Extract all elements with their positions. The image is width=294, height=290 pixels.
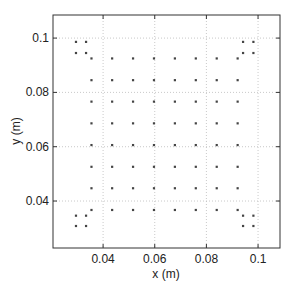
x-tick-label: 0.04: [91, 252, 115, 266]
data-point: [153, 166, 155, 168]
data-point: [132, 209, 134, 211]
data-point: [90, 57, 92, 59]
data-point: [174, 57, 176, 59]
data-point: [111, 144, 113, 146]
data-point: [132, 187, 134, 189]
data-point: [132, 57, 134, 59]
data-point: [75, 41, 77, 43]
data-point: [85, 215, 87, 217]
data-point: [111, 187, 113, 189]
plot-frame: [53, 15, 280, 248]
data-point: [216, 209, 218, 211]
data-point: [85, 52, 87, 54]
data-point: [216, 122, 218, 124]
grid-lines: [53, 15, 280, 248]
data-point: [153, 209, 155, 211]
axis-ticks: 0.040.060.080.10.040.060.080.1: [26, 15, 280, 266]
data-point: [174, 187, 176, 189]
data-point: [132, 101, 134, 103]
data-point: [195, 144, 197, 146]
data-point: [153, 101, 155, 103]
data-point: [132, 166, 134, 168]
data-point: [252, 225, 254, 227]
x-tick-label: 0.1: [250, 252, 267, 266]
data-point: [90, 122, 92, 124]
x-axis-label: x (m): [152, 267, 179, 281]
data-point: [216, 79, 218, 81]
data-point: [90, 209, 92, 211]
data-point: [237, 166, 239, 168]
data-points: [75, 41, 255, 227]
data-point: [216, 101, 218, 103]
data-point: [174, 122, 176, 124]
data-point: [252, 215, 254, 217]
data-point: [90, 101, 92, 103]
data-point: [252, 41, 254, 43]
data-point: [75, 52, 77, 54]
data-point: [195, 166, 197, 168]
y-tick-label: 0.06: [26, 140, 50, 154]
y-axis-label: y (m): [9, 117, 23, 144]
data-point: [195, 122, 197, 124]
data-point: [216, 57, 218, 59]
data-point: [153, 144, 155, 146]
data-point: [90, 79, 92, 81]
data-point: [242, 52, 244, 54]
data-point: [242, 225, 244, 227]
data-point: [132, 122, 134, 124]
data-point: [85, 225, 87, 227]
data-point: [242, 41, 244, 43]
data-point: [153, 79, 155, 81]
data-point: [132, 144, 134, 146]
data-point: [174, 166, 176, 168]
data-point: [237, 79, 239, 81]
data-point: [174, 144, 176, 146]
data-point: [252, 52, 254, 54]
data-point: [90, 166, 92, 168]
data-point: [111, 57, 113, 59]
y-tick-label: 0.1: [32, 31, 49, 45]
data-point: [237, 144, 239, 146]
data-point: [242, 215, 244, 217]
data-point: [111, 101, 113, 103]
data-point: [75, 215, 77, 217]
x-tick-label: 0.08: [195, 252, 219, 266]
data-point: [174, 79, 176, 81]
data-point: [195, 101, 197, 103]
scatter-plot: 0.040.060.080.10.040.060.080.1 x (m) y (…: [0, 0, 294, 290]
y-tick-label: 0.08: [26, 85, 50, 99]
data-point: [195, 79, 197, 81]
y-tick-label: 0.04: [26, 194, 50, 208]
x-tick-label: 0.06: [143, 252, 167, 266]
data-point: [111, 166, 113, 168]
data-point: [216, 144, 218, 146]
data-point: [174, 209, 176, 211]
data-point: [195, 57, 197, 59]
data-point: [111, 79, 113, 81]
data-point: [216, 166, 218, 168]
data-point: [111, 122, 113, 124]
data-point: [195, 187, 197, 189]
data-point: [85, 41, 87, 43]
data-point: [153, 187, 155, 189]
data-point: [237, 209, 239, 211]
data-point: [153, 57, 155, 59]
data-point: [174, 101, 176, 103]
data-point: [237, 187, 239, 189]
data-point: [111, 209, 113, 211]
data-point: [75, 225, 77, 227]
data-point: [237, 57, 239, 59]
data-point: [237, 101, 239, 103]
data-point: [90, 187, 92, 189]
data-point: [153, 122, 155, 124]
data-point: [216, 187, 218, 189]
data-point: [132, 79, 134, 81]
data-point: [90, 144, 92, 146]
data-point: [237, 122, 239, 124]
data-point: [195, 209, 197, 211]
